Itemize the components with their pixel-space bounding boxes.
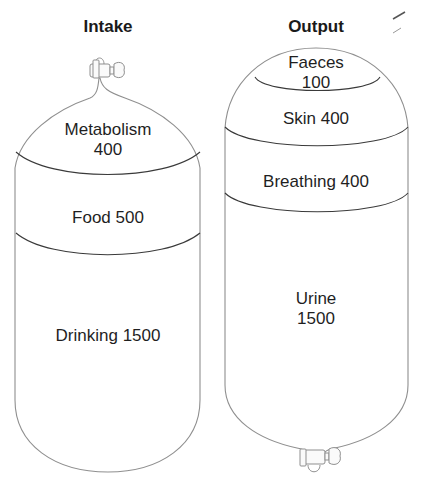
output-label-skin: Skin 400 [256,109,376,129]
output-label-urine: Urine 1500 [266,289,366,329]
intake-title: Intake [58,17,158,37]
output-label-breathing: Breathing 400 [236,172,396,192]
faeces-value: 100 [266,73,366,93]
pen-mark [393,12,405,19]
pen-mark [393,28,401,33]
urine-name: Urine [266,289,366,309]
output-valve-icon [300,448,340,472]
metabolism-name: Metabolism [38,120,178,140]
metabolism-value: 400 [38,140,178,160]
intake-label-drinking: Drinking 1500 [28,326,188,346]
intake-valve-icon [90,58,124,78]
intake-label-metabolism: Metabolism 400 [38,120,178,160]
faeces-name: Faeces [266,53,366,73]
output-label-faeces: Faeces 100 [266,53,366,93]
urine-value: 1500 [266,309,366,329]
output-title: Output [266,17,366,37]
intake-label-food: Food 500 [38,208,178,228]
